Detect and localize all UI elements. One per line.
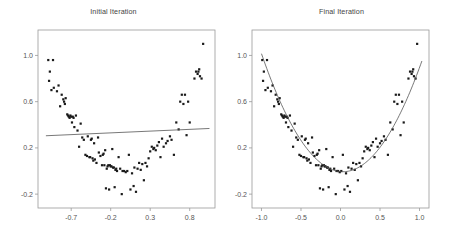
x-tick-label: -0.5	[295, 214, 307, 221]
data-point	[111, 148, 113, 150]
data-point	[114, 186, 116, 188]
y-tick-label: 0.6	[237, 98, 247, 105]
data-point	[65, 97, 67, 99]
data-point	[309, 162, 311, 164]
x-tick-label: 0.3	[145, 214, 155, 221]
data-point	[57, 84, 59, 86]
plot-initial-iteration: -0.7-0.20.30.81.00.60.2-0.2	[0, 0, 227, 242]
data-point	[104, 149, 106, 151]
x-tick-label: 0.0	[336, 214, 346, 221]
linear-fit-line	[46, 128, 210, 135]
data-point	[89, 156, 91, 158]
data-point	[311, 136, 313, 138]
x-tick-label: -0.7	[65, 214, 77, 221]
data-point	[379, 142, 381, 144]
data-point	[153, 147, 155, 149]
data-point	[105, 187, 107, 189]
data-point	[158, 141, 160, 143]
data-point	[317, 164, 319, 166]
data-point	[56, 90, 58, 92]
data-point	[308, 158, 310, 160]
data-point	[78, 146, 80, 148]
data-point	[189, 121, 191, 123]
data-point	[367, 147, 369, 149]
data-point	[387, 154, 389, 156]
data-point	[393, 101, 395, 103]
data-point	[266, 59, 268, 61]
data-point	[129, 188, 131, 190]
data-point	[76, 129, 78, 131]
data-point	[319, 187, 321, 189]
data-point	[320, 168, 322, 170]
data-point	[370, 144, 372, 146]
data-point	[72, 117, 74, 119]
data-point	[305, 138, 307, 140]
data-point	[303, 156, 305, 158]
data-point	[169, 135, 171, 137]
data-point	[163, 146, 165, 148]
data-point	[278, 103, 280, 105]
data-point	[318, 149, 320, 151]
data-point	[149, 150, 151, 152]
data-point	[395, 94, 397, 96]
data-point	[50, 89, 52, 91]
data-point	[362, 157, 364, 159]
data-point	[276, 98, 278, 100]
data-point	[108, 188, 110, 190]
data-point	[290, 129, 292, 131]
data-point	[106, 168, 108, 170]
data-point	[156, 144, 158, 146]
data-point	[295, 136, 297, 138]
x-tick-label: -1.0	[255, 214, 267, 221]
data-point	[101, 164, 103, 166]
data-point	[95, 162, 97, 164]
data-point	[264, 89, 266, 91]
data-point	[316, 153, 318, 155]
data-point	[83, 139, 85, 141]
data-point	[294, 123, 296, 125]
data-point	[48, 80, 50, 82]
data-point	[312, 151, 314, 153]
data-point	[301, 135, 303, 137]
data-point	[349, 191, 351, 193]
data-point	[97, 136, 99, 138]
data-point	[181, 94, 183, 96]
data-point	[117, 156, 119, 158]
figure-scatter-pair: Initial Iteration -0.7-0.20.30.81.00.60.…	[0, 0, 455, 242]
data-point	[305, 157, 307, 159]
data-point	[416, 43, 418, 45]
data-point	[325, 148, 327, 150]
data-point	[300, 155, 302, 157]
data-point	[159, 156, 161, 158]
data-point	[121, 193, 123, 195]
data-point	[377, 146, 379, 148]
data-point	[119, 168, 121, 170]
data-point	[71, 121, 73, 123]
data-point	[383, 135, 385, 137]
data-point	[198, 68, 200, 70]
data-point	[307, 142, 309, 144]
data-point	[335, 193, 337, 195]
data-point	[197, 73, 199, 75]
data-point	[285, 121, 287, 123]
data-point	[61, 94, 63, 96]
data-point	[399, 134, 401, 136]
data-point	[199, 75, 201, 77]
data-point	[270, 90, 272, 92]
data-point	[99, 155, 101, 157]
y-tick-label: 1.0	[23, 52, 33, 59]
data-point	[133, 166, 135, 168]
data-point	[143, 179, 145, 181]
data-point	[113, 166, 115, 168]
data-point	[91, 138, 93, 140]
plot-frame	[38, 30, 215, 208]
data-point	[401, 101, 403, 103]
y-tick-label: 0.6	[23, 98, 33, 105]
data-point	[398, 94, 400, 96]
y-tick-label: 1.0	[237, 52, 247, 59]
data-point	[102, 153, 104, 155]
data-point	[91, 157, 93, 159]
data-point	[140, 169, 142, 171]
data-point	[350, 168, 352, 170]
data-point	[322, 188, 324, 190]
